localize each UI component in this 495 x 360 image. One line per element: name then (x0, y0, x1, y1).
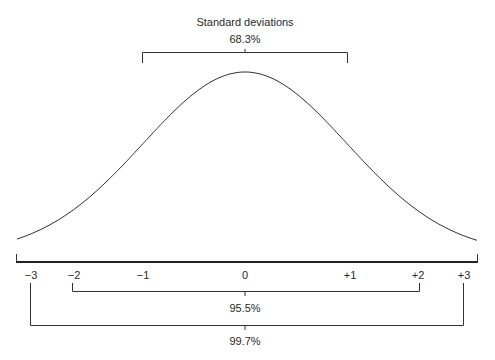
tick-label-0: 0 (242, 270, 248, 281)
tick-label-pos3: +3 (458, 270, 471, 281)
tick-label-pos1: +1 (344, 270, 357, 281)
percentage-brackets (31, 49, 464, 330)
bracket-label-1sd: 68.3% (229, 34, 260, 45)
tick-label-pos2: +2 (412, 270, 425, 281)
tick-label-neg3: −3 (25, 270, 38, 281)
diagram-title: Standard deviations (196, 17, 293, 28)
tick-label-neg1: −1 (137, 270, 150, 281)
bracket-2sd (73, 283, 420, 296)
bracket-label-2sd: 95.5% (229, 303, 260, 314)
bracket-1sd (143, 49, 348, 63)
bell-curve (17, 72, 477, 240)
bracket-label-3sd: 99.7% (229, 336, 260, 347)
tick-label-neg2: −2 (68, 270, 81, 281)
